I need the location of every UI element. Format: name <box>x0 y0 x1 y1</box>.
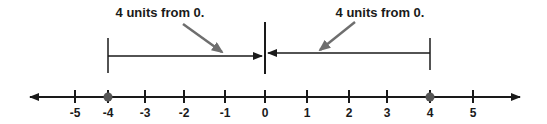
tick-label: 4 <box>427 106 434 120</box>
pointer-arrow-left <box>183 24 222 52</box>
plotted-point <box>104 93 113 102</box>
tick-label: -1 <box>220 106 231 120</box>
distance-bracket-right <box>268 38 430 70</box>
tick-label: 1 <box>304 106 311 120</box>
tick-label: 5 <box>470 106 477 120</box>
tick-label: 3 <box>384 106 391 120</box>
distance-bracket-left <box>108 38 262 73</box>
tick-label: -5 <box>70 106 81 120</box>
number-line-diagram: -5-4-3-2-1012345 4 units from 0. 4 units… <box>0 0 547 124</box>
annotation-right: 4 units from 0. <box>336 5 425 20</box>
tick-label: -2 <box>179 106 190 120</box>
tick-label: 0 <box>262 106 269 120</box>
tick-marks: -5-4-3-2-1012345 <box>70 90 477 120</box>
pointer-arrow-right <box>320 22 355 50</box>
tick-label: 2 <box>346 106 353 120</box>
plotted-point <box>426 93 435 102</box>
tick-label: -3 <box>140 106 151 120</box>
annotation-left: 4 units from 0. <box>116 5 205 20</box>
tick-label: -4 <box>103 106 114 120</box>
